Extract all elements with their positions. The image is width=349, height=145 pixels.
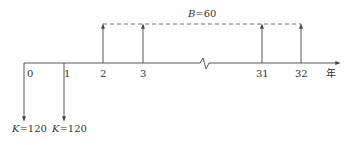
axis-unit-label: 年 [326,67,336,79]
inflow-value: =60 [195,8,216,19]
outflow-value-0: =120 [19,123,46,134]
time-axis [24,58,338,69]
cash-flow-diagram: 0 1 2 3 31 32 年 K=120 K=120 B=60 [0,0,349,145]
outflow-label-0: K=120 [11,123,47,134]
tick-label-2: 2 [100,68,106,79]
tick-label-32: 32 [295,68,308,79]
tick-label-31: 31 [256,68,269,79]
inflow-label: B=60 [187,8,216,19]
outflow-label-1: K=120 [51,123,87,134]
tick-label-1: 1 [64,68,70,79]
tick-label-3: 3 [140,68,146,79]
tick-label-0: 0 [27,68,33,79]
outflow-value-1: =120 [59,123,86,134]
inflow-var: B [187,8,195,19]
axis-break-icon [200,58,209,69]
